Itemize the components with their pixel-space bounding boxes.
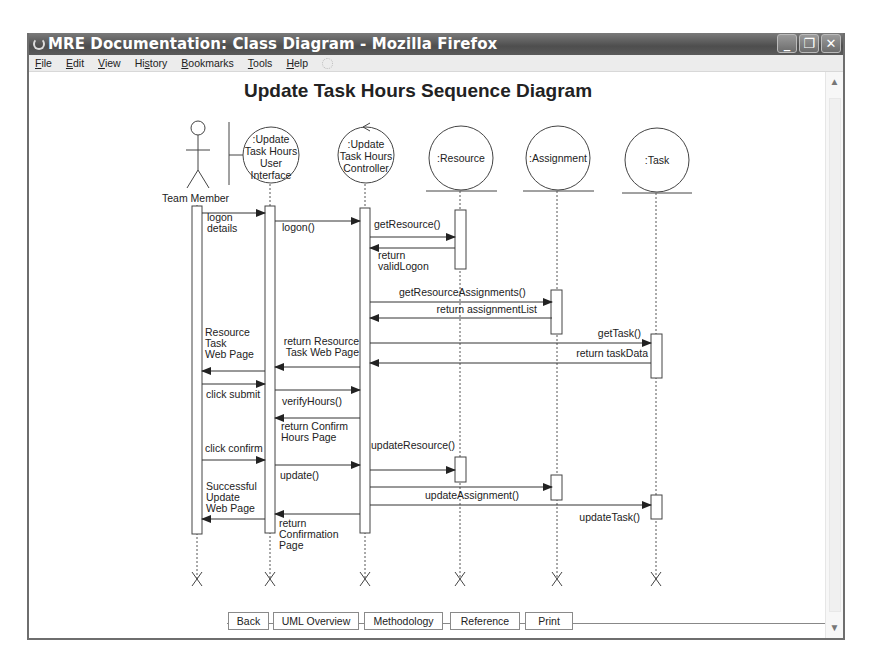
- message-label: return taskData: [576, 347, 648, 359]
- vertical-scrollbar[interactable]: ▲ ▼: [825, 72, 843, 638]
- actor-label: Team Member: [162, 192, 230, 204]
- message-label: Task Web Page: [286, 346, 360, 358]
- nav-button-print[interactable]: Print: [525, 612, 573, 630]
- message: updateTask(): [370, 505, 651, 523]
- message: return taskData: [370, 347, 651, 363]
- activation-bar: [551, 290, 562, 334]
- message: verifyHours(): [275, 390, 360, 407]
- entity-assignment-label: :Assignment: [529, 152, 587, 164]
- page-content: Update Task Hours Sequence Diagram Team …: [29, 72, 843, 638]
- message: getTask(): [370, 327, 651, 343]
- nav-button-methodology[interactable]: Methodology: [364, 612, 443, 630]
- message-label: details: [207, 222, 237, 234]
- message-label: Web Page: [206, 502, 255, 514]
- svg-text::Update: :Update: [348, 138, 385, 150]
- svg-text:User: User: [260, 157, 283, 169]
- destroy-x-icon: [265, 572, 275, 586]
- message-label: Hours Page: [281, 431, 337, 443]
- activation-bar: [455, 457, 466, 482]
- destroy-x-icon: [360, 572, 370, 586]
- entity-task-label: :Task: [645, 154, 670, 166]
- message: click submit: [202, 384, 265, 400]
- activation-bar: [265, 206, 275, 533]
- message-label: updateResource(): [371, 439, 455, 451]
- message: return assignmentList: [370, 303, 552, 318]
- message-label: updateAssignment(): [425, 489, 519, 501]
- message: updateAssignment(): [370, 487, 552, 501]
- message: logon(): [275, 221, 360, 233]
- message: getResource(): [370, 218, 455, 237]
- sequence-diagram: Team Member :Update Task Hours User Inte…: [2, 0, 872, 661]
- destroy-x-icon: [455, 572, 465, 586]
- message-label: update(): [280, 469, 319, 481]
- message: SuccessfulUpdateWeb Page: [202, 480, 265, 519]
- svg-text:Interface: Interface: [251, 169, 292, 181]
- scroll-thumb[interactable]: [829, 98, 841, 612]
- message: return ConfirmHours Page: [275, 418, 360, 443]
- activation-bar: [192, 206, 202, 534]
- lifeline-terminators: [192, 572, 661, 586]
- nav-button-uml-overview[interactable]: UML Overview: [273, 612, 359, 630]
- control-object-label: :Update Task Hours Controller: [340, 138, 393, 174]
- message-label: getTask(): [598, 327, 641, 339]
- actor-team-member: [186, 121, 210, 188]
- destroy-x-icon: [552, 572, 562, 586]
- message: return ResourceTask Web Page: [275, 335, 360, 367]
- svg-text:Task Hours: Task Hours: [245, 145, 298, 157]
- ui-object-label: :Update Task Hours User Interface: [245, 133, 298, 181]
- message: getResourceAssignments(): [370, 286, 552, 302]
- message-label: validLogon: [378, 260, 429, 272]
- activation-bar: [651, 495, 662, 519]
- activation-bars: [192, 206, 662, 534]
- browser-window: MRE Documentation: Class Diagram - Mozil…: [27, 33, 845, 640]
- message: returnConfirmationPage: [275, 514, 360, 551]
- message-label: Page: [279, 539, 304, 551]
- nav-button-back[interactable]: Back: [228, 612, 269, 630]
- activation-bar: [651, 334, 662, 378]
- message-label: Web Page: [205, 348, 254, 360]
- message: returnvalidLogon: [370, 248, 455, 272]
- scroll-up-icon[interactable]: ▲: [826, 74, 843, 90]
- message-label: updateTask(): [579, 511, 640, 523]
- entity-resource-label: :Resource: [437, 152, 485, 164]
- message: update(): [275, 465, 360, 481]
- nav-button-reference[interactable]: Reference: [450, 612, 520, 630]
- nav-bar: BackUML OverviewMethodologyReferencePrin…: [29, 612, 825, 638]
- message-label: logon(): [282, 221, 315, 233]
- message-label: getResourceAssignments(): [399, 286, 526, 298]
- message-label: click confirm: [205, 442, 263, 454]
- message: updateResource(): [370, 439, 455, 470]
- message: ResourceTaskWeb Page: [202, 326, 265, 371]
- message-label: verifyHours(): [282, 395, 342, 407]
- activation-bar: [360, 208, 370, 533]
- message-label: getResource(): [374, 218, 441, 230]
- message-label: click submit: [206, 388, 260, 400]
- svg-text:Controller: Controller: [343, 162, 389, 174]
- scroll-down-icon[interactable]: ▼: [826, 620, 843, 636]
- activation-bar: [551, 475, 562, 500]
- message-label: return assignmentList: [437, 303, 537, 315]
- svg-text::Update: :Update: [253, 133, 290, 145]
- svg-text:Task Hours: Task Hours: [340, 150, 393, 162]
- message: click confirm: [202, 442, 265, 460]
- message: logondetails: [202, 211, 265, 234]
- activation-bar: [455, 210, 466, 269]
